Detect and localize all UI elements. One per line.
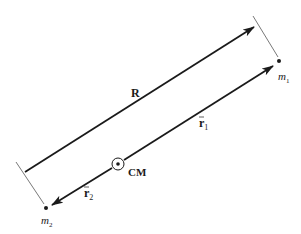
vector-r1-arrow xyxy=(124,66,273,160)
label-cm: CM xyxy=(128,166,147,178)
vector-r2-arrow xyxy=(52,168,112,205)
label-m1: m1 xyxy=(278,70,290,85)
label-m2: m2 xyxy=(41,214,53,229)
diagram-canvas: R r1 r2 CM m1 m2 xyxy=(0,0,301,234)
label-r1: r1 xyxy=(199,116,208,132)
mass-m1-dot xyxy=(277,59,281,63)
mass-m2-dot xyxy=(44,206,48,210)
label-R: R xyxy=(131,86,140,100)
two-body-diagram: R r1 r2 CM m1 m2 xyxy=(0,0,301,234)
center-of-mass-icon xyxy=(112,158,124,170)
label-r2: r2 xyxy=(84,186,93,202)
right-extent-tick xyxy=(253,16,278,57)
